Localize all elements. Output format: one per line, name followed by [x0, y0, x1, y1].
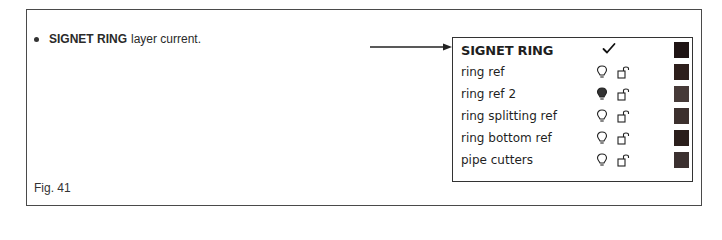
- layer-row-ring-bottom-ref[interactable]: ring bottom ref: [461, 127, 689, 149]
- instruction-text: layer current.: [131, 32, 201, 46]
- unlocked-padlock-icon[interactable]: [617, 153, 630, 167]
- layer-name: ring bottom ref: [461, 131, 601, 145]
- bullet-instruction: SIGNET RING layer current.: [34, 32, 201, 46]
- lightbulb-off-icon[interactable]: [596, 87, 608, 101]
- layer-name: ring ref: [461, 65, 601, 79]
- layer-color-swatch[interactable]: [674, 64, 689, 80]
- layer-row-ring-ref[interactable]: ring ref: [461, 61, 689, 83]
- lightbulb-on-icon[interactable]: [596, 153, 608, 167]
- bullet-dot: [34, 37, 39, 42]
- layer-color-swatch[interactable]: [674, 130, 689, 146]
- layer-name: ring ref 2: [461, 87, 601, 101]
- layers-panel: SIGNET RING ring ref ring ref 2 ring sp: [452, 37, 693, 182]
- layer-name: pipe cutters: [461, 153, 601, 167]
- layer-name: SIGNET RING: [461, 43, 601, 58]
- checkmark-icon: [602, 41, 616, 55]
- layer-color-swatch[interactable]: [674, 152, 689, 168]
- pointer-arrow-icon: [370, 42, 452, 52]
- unlocked-padlock-icon[interactable]: [617, 87, 630, 101]
- lightbulb-on-icon[interactable]: [596, 131, 608, 145]
- unlocked-padlock-icon[interactable]: [617, 131, 630, 145]
- figure-label: Fig. 41: [34, 181, 71, 195]
- layer-row-ring-splitting-ref[interactable]: ring splitting ref: [461, 105, 689, 127]
- lightbulb-on-icon[interactable]: [596, 109, 608, 123]
- layer-row-signet-ring[interactable]: SIGNET RING: [461, 39, 689, 61]
- layer-row-ring-ref-2[interactable]: ring ref 2: [461, 83, 689, 105]
- layer-color-swatch[interactable]: [674, 108, 689, 124]
- unlocked-padlock-icon[interactable]: [617, 109, 630, 123]
- unlocked-padlock-icon[interactable]: [617, 65, 630, 79]
- lightbulb-on-icon[interactable]: [596, 65, 608, 79]
- layer-color-swatch[interactable]: [674, 86, 689, 102]
- layer-name-emphasis: SIGNET RING: [49, 32, 127, 46]
- layer-row-pipe-cutters[interactable]: pipe cutters: [461, 149, 689, 171]
- layer-name: ring splitting ref: [461, 109, 601, 123]
- layer-color-swatch[interactable]: [674, 42, 689, 58]
